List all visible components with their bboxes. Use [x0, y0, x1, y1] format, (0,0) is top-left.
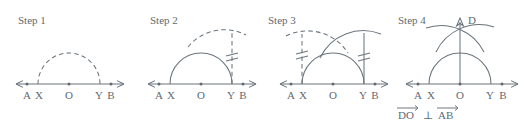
- step-2-figure: A X O Y B: [132, 0, 264, 127]
- solid-semicircle: [302, 53, 364, 84]
- solid-arc-right: [320, 31, 381, 58]
- label-d: D: [468, 14, 476, 26]
- label-a: A: [155, 89, 163, 101]
- label-a: A: [414, 89, 422, 101]
- step-2-panel: Step 2 A X O Y B: [132, 0, 264, 127]
- label-b: B: [499, 89, 506, 101]
- point-b: [242, 83, 245, 86]
- dashed-construction-arc: [188, 30, 246, 47]
- label-x: X: [299, 89, 307, 101]
- dashed-arc-left: [286, 31, 348, 53]
- point-a: [26, 83, 29, 86]
- tick-mark-1: [226, 53, 238, 56]
- arc-from-x: [426, 26, 484, 52]
- point-b: [110, 83, 113, 86]
- label-y: Y: [227, 89, 235, 101]
- label-a: A: [23, 89, 31, 101]
- label-o: O: [456, 89, 464, 101]
- label-y: Y: [95, 89, 103, 101]
- label-a: A: [287, 89, 295, 101]
- point-o: [332, 83, 335, 86]
- step-3-figure: A X O Y B: [264, 0, 396, 127]
- label-b: B: [239, 89, 246, 101]
- conclusion-expression: DO ⊥ AB: [396, 102, 527, 127]
- point-o: [200, 83, 203, 86]
- point-b: [501, 83, 504, 86]
- label-x: X: [167, 89, 175, 101]
- step-4-panel: Step 4 D A X O Y B DO ⊥: [396, 0, 527, 127]
- label-o: O: [65, 89, 73, 101]
- label-x: X: [35, 89, 43, 101]
- point-a: [158, 83, 161, 86]
- label-y: Y: [486, 89, 494, 101]
- label-x: X: [427, 89, 435, 101]
- label-b: B: [371, 89, 378, 101]
- conclusion-relation: ⊥: [423, 109, 433, 121]
- step-3-panel: Step 3 A X O Y: [264, 0, 396, 127]
- label-b: B: [107, 89, 114, 101]
- step-1-panel: Step 1 A X O Y B: [0, 0, 132, 127]
- conclusion-segment-1: DO: [398, 109, 414, 121]
- point-a: [290, 83, 293, 86]
- conclusion-segment-2: AB: [438, 109, 453, 121]
- point-o: [68, 83, 71, 86]
- point-o: [459, 83, 462, 86]
- label-y: Y: [359, 89, 367, 101]
- label-o: O: [197, 89, 205, 101]
- construction-diagram: Step 1 A X O Y B Step 2: [0, 0, 527, 127]
- arc-from-y: [436, 25, 494, 52]
- step-1-figure: A X O Y B: [0, 0, 132, 127]
- solid-semicircle: [170, 53, 232, 84]
- label-o: O: [329, 89, 337, 101]
- point-b: [374, 83, 377, 86]
- point-a: [417, 83, 420, 86]
- dashed-semicircle: [38, 53, 100, 84]
